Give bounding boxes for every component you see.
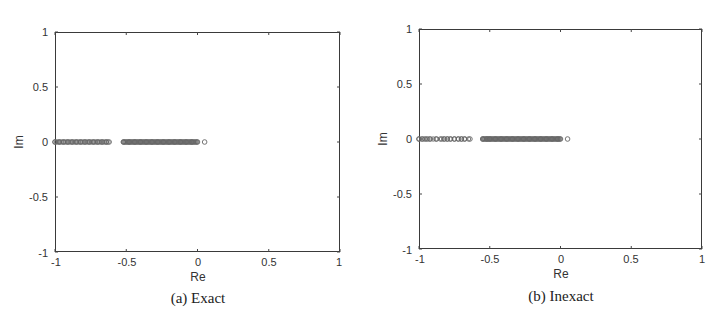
figure-panel-a: 1 0.5 0 -0.5 -1 -1 -0.5 0 0.5 1 Re Im (a… bbox=[0, 0, 364, 329]
figure-panel-b: 1 0.5 0 -0.5 -1 -1 -0.5 0 0.5 1 Re Im (b… bbox=[364, 0, 728, 329]
scatter-points-a bbox=[0, 0, 364, 329]
scatter-points-b bbox=[364, 0, 728, 329]
